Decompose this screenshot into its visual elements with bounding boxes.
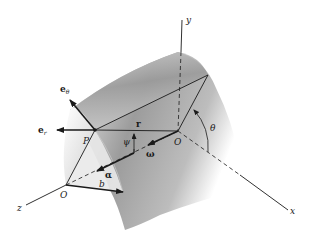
- e-theta-label: eθ: [60, 84, 70, 95]
- r-label: r: [136, 119, 141, 129]
- cylinder-surface: [64, 52, 240, 230]
- b-label: b: [99, 179, 105, 189]
- x-axis-label: x: [290, 206, 295, 216]
- theta-label: θ: [210, 123, 216, 133]
- psi-label: ψ: [123, 137, 131, 147]
- omega-label: ω: [146, 149, 155, 159]
- cylinder-kinematics-diagram: y x z P O O eθ er r: [0, 0, 310, 235]
- y-axis-label: y: [185, 15, 192, 25]
- origin-back-label: O: [174, 137, 182, 147]
- e-r-label: er: [38, 125, 48, 136]
- origin-front-label: O: [60, 190, 68, 200]
- alpha-label: α: [105, 170, 112, 180]
- point-p-label: P: [82, 136, 90, 146]
- z-axis-label: z: [16, 203, 22, 213]
